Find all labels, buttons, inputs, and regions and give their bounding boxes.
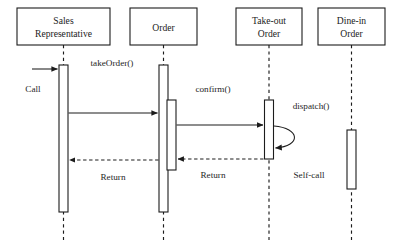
participant-dine-in-order[interactable]: Dine-in Order xyxy=(318,8,385,45)
participant-box-sales-representative[interactable] xyxy=(17,8,110,45)
message-labels-group: Call takeOrder() confirm() dispatch() Se… xyxy=(25,58,329,182)
message-label-take-order: takeOrder() xyxy=(91,58,134,68)
participant-label-sales-representative-line2: Representative xyxy=(35,28,92,39)
activation-bar-sales-representative xyxy=(59,65,68,212)
lifelines-group xyxy=(64,45,352,240)
activation-bar-order-nested xyxy=(167,100,176,170)
activation-bar-dine-in-order xyxy=(347,130,356,189)
participant-label-take-out-order-line1: Take-out xyxy=(252,15,286,26)
participant-label-dine-in-order-line1: Dine-in xyxy=(337,15,367,26)
sequence-diagram-canvas: Sales Representative Order Take-out Orde… xyxy=(0,0,399,248)
participant-boxes-group: Sales Representative Order Take-out Orde… xyxy=(17,8,385,45)
message-label-return-inner: Return xyxy=(200,170,225,180)
participant-label-dine-in-order-line2: Order xyxy=(340,28,363,39)
participant-label-take-out-order-line2: Order xyxy=(258,28,281,39)
participant-box-dine-in-order[interactable] xyxy=(318,8,385,45)
participant-label-order-line1: Order xyxy=(152,22,175,33)
message-label-call: Call xyxy=(25,84,41,94)
sequence-diagram-svg: Sales Representative Order Take-out Orde… xyxy=(0,0,399,248)
message-label-dispatch: dispatch() xyxy=(293,101,330,111)
message-label-self-call: Self-call xyxy=(293,170,325,180)
message-arrow-dispatch-self-call xyxy=(274,126,294,148)
message-label-confirm: confirm() xyxy=(195,84,230,94)
participant-label-sales-representative-line1: Sales xyxy=(53,15,74,26)
participant-take-out-order[interactable]: Take-out Order xyxy=(236,8,302,45)
participant-order[interactable]: Order xyxy=(130,8,197,45)
activation-bar-take-out-order xyxy=(265,100,274,159)
participant-sales-representative[interactable]: Sales Representative xyxy=(17,8,110,45)
participant-box-take-out-order[interactable] xyxy=(236,8,302,45)
message-label-return-outer: Return xyxy=(100,172,125,182)
